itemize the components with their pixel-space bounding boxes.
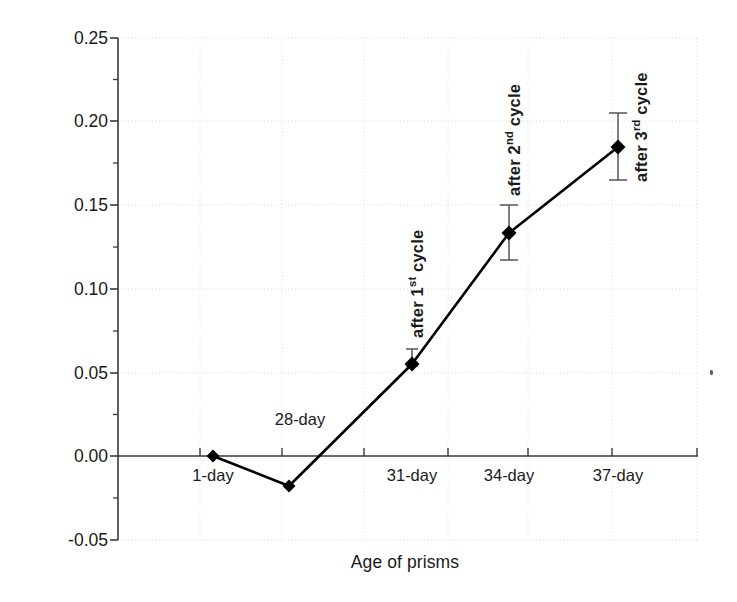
x-axis-title: Age of prisms bbox=[110, 552, 700, 573]
annotation-text-tail: cycle bbox=[408, 230, 426, 277]
annotation-after-1st-cycle: after 1st cycle bbox=[406, 230, 427, 338]
annotation-ordinal-suffix: rd bbox=[630, 119, 642, 131]
annotation-after-3rd-cycle: after 3rd cycle bbox=[630, 72, 651, 182]
annotation-text: after 2 bbox=[505, 145, 523, 196]
chart-figure: Length change of prisms (%) 0.25 0.20 0.… bbox=[0, 0, 737, 602]
annotation-text: after 3 bbox=[632, 131, 650, 182]
x-tick-label-34-day: 34-day bbox=[484, 466, 534, 485]
annotation-text-tail: cycle bbox=[632, 72, 650, 119]
x-tick-label-1-day: 1-day bbox=[192, 466, 233, 485]
annotation-ordinal-suffix: st bbox=[406, 277, 418, 287]
x-tick-label-37-day: 37-day bbox=[593, 466, 643, 485]
annotation-ordinal-suffix: nd bbox=[503, 131, 515, 145]
annotation-after-2nd-cycle: after 2nd cycle bbox=[503, 84, 524, 196]
x-tick-label-28-day: 28-day bbox=[275, 410, 325, 429]
annotation-text: after 1 bbox=[408, 287, 426, 338]
annotation-text-tail: cycle bbox=[505, 84, 523, 131]
scan-artifact-speck bbox=[710, 370, 713, 375]
plot-area bbox=[0, 0, 737, 602]
x-tick-label-31-day: 31-day bbox=[387, 466, 437, 485]
